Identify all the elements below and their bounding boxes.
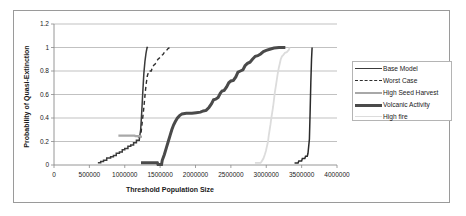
series-line-high-seed-harvest [118,136,141,137]
x-tick-label: 4000000 [309,171,365,178]
y-tick-label: 0.8 [27,67,49,74]
legend-item[interactable]: High fire [353,110,451,122]
legend-line-swatch-icon [355,87,382,97]
y-tick-label: 1.2 [27,20,49,27]
y-tick-label: 0.6 [27,91,49,98]
chart-figure: Probability of Quasi-Extinction Threshol… [0,0,466,216]
legend-item[interactable]: Volcanic Activity [353,98,451,110]
x-axis-title: Threshold Population Size [0,186,340,193]
series-line-high-fire [255,48,290,163]
legend-item[interactable]: Base Model [353,62,451,74]
legend-item-label: High Seed Harvest [382,89,438,96]
series-line-volcanic-activity-tail [295,48,313,163]
series-line-base-model [98,48,148,163]
legend-item-label: Volcanic Activity [382,101,430,108]
y-tick-label: 0 [27,161,49,168]
legend-item-label: Worst Case [382,77,417,84]
legend-item-label: Base Model [382,65,418,72]
legend-item-label: High fire [382,113,408,120]
y-tick-label: 0.2 [27,138,49,145]
legend-line-swatch-icon [355,75,382,85]
legend-item[interactable]: High Seed Harvest [353,86,451,98]
legend-line-swatch-icon [355,99,382,109]
y-tick-label: 0.4 [27,114,49,121]
series-line-volcanic-activity [141,48,285,165]
legend-line-swatch-icon [355,111,382,121]
legend-item[interactable]: Worst Case [353,74,451,86]
chart-legend: Base ModelWorst CaseHigh Seed HarvestVol… [352,61,452,121]
y-tick-label: 1 [27,44,49,51]
legend-line-swatch-icon [355,63,382,73]
